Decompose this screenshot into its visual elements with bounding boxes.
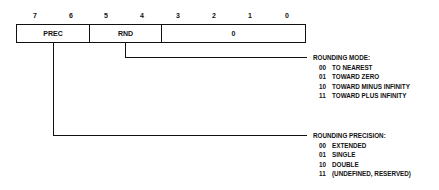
option-code: 10 — [319, 82, 332, 92]
bit-number-3: 3 — [173, 12, 183, 19]
option-code: 01 — [319, 72, 332, 82]
rounding-mode-option: 10TOWARD MINUS INFINITY — [319, 82, 410, 92]
bit-number-6: 6 — [66, 12, 76, 19]
bit-number-2: 2 — [209, 12, 219, 19]
option-code: 00 — [319, 141, 332, 151]
option-code: 00 — [319, 63, 332, 73]
rounding-mode-legend: ROUNDING MODE: 00TO NEAREST 01TOWARD ZER… — [313, 53, 410, 101]
rounding-precision-option: 10DOUBLE — [319, 160, 411, 170]
option-label: (UNDEFINED, RESERVED) — [332, 170, 411, 177]
option-label: SINGLE — [332, 151, 355, 158]
rnd-connector-horizontal — [125, 57, 307, 58]
bit-number-4: 4 — [137, 12, 147, 19]
option-label: EXTENDED — [332, 142, 366, 149]
option-code: 01 — [319, 150, 332, 160]
field-prec-label: PREC — [43, 30, 62, 37]
rounding-precision-option: 11(UNDEFINED, RESERVED) — [319, 169, 411, 179]
register-box: PREC RND 0 — [16, 24, 306, 43]
field-reserved-zero: 0 — [162, 25, 305, 42]
rnd-connector-vertical — [125, 43, 126, 58]
rounding-mode-option: 00TO NEAREST — [319, 63, 410, 73]
bit-number-1: 1 — [245, 12, 255, 19]
option-label: DOUBLE — [332, 161, 359, 168]
prec-connector-horizontal — [53, 135, 307, 136]
field-rnd-label: RND — [118, 30, 133, 37]
rounding-mode-option: 11TOWARD PLUS INFINITY — [319, 91, 410, 101]
rounding-precision-option: 01SINGLE — [319, 150, 411, 160]
bit-number-5: 5 — [101, 12, 111, 19]
option-label: TOWARD PLUS INFINITY — [332, 92, 406, 99]
bit-number-7: 7 — [30, 12, 40, 19]
rounding-mode-title: ROUNDING MODE: — [313, 53, 410, 63]
option-label: TO NEAREST — [332, 64, 372, 71]
bit-number-0: 0 — [282, 12, 292, 19]
option-code: 11 — [319, 169, 332, 179]
rounding-mode-option: 01TOWARD ZERO — [319, 72, 410, 82]
rounding-precision-title: ROUNDING PRECISION: — [313, 131, 411, 141]
field-rnd: RND — [90, 25, 162, 42]
option-label: TOWARD MINUS INFINITY — [332, 83, 410, 90]
option-code: 11 — [319, 91, 332, 101]
field-zero-label: 0 — [232, 30, 236, 37]
option-label: TOWARD ZERO — [332, 73, 379, 80]
option-code: 10 — [319, 160, 332, 170]
rounding-precision-option: 00EXTENDED — [319, 141, 411, 151]
prec-connector-vertical — [53, 43, 54, 136]
field-prec: PREC — [17, 25, 90, 42]
rounding-precision-legend: ROUNDING PRECISION: 00EXTENDED 01SINGLE … — [313, 131, 411, 179]
